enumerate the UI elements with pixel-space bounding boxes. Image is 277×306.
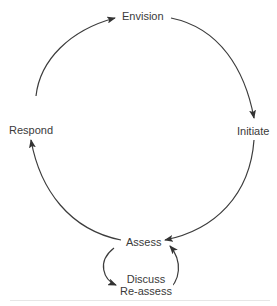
- edge-assess-to-discuss: [103, 248, 116, 285]
- node-discuss-line1: Discuss: [120, 273, 172, 285]
- node-discuss-line2: Re-assess: [120, 285, 172, 297]
- edge-envision-to-initiate: [171, 18, 254, 118]
- bottom-divider: [10, 300, 270, 301]
- edge-initiate-to-assess: [165, 140, 254, 240]
- edge-assess-to-respond: [31, 140, 121, 240]
- node-respond: Respond: [8, 124, 54, 136]
- node-envision: Envision: [121, 10, 165, 22]
- edge-respond-to-envision: [36, 18, 115, 96]
- node-discuss-reassess: Discuss Re-assess: [119, 273, 173, 297]
- node-assess: Assess: [125, 236, 162, 248]
- node-initiate: Initiate: [236, 125, 270, 137]
- cycle-diagram: [0, 0, 277, 306]
